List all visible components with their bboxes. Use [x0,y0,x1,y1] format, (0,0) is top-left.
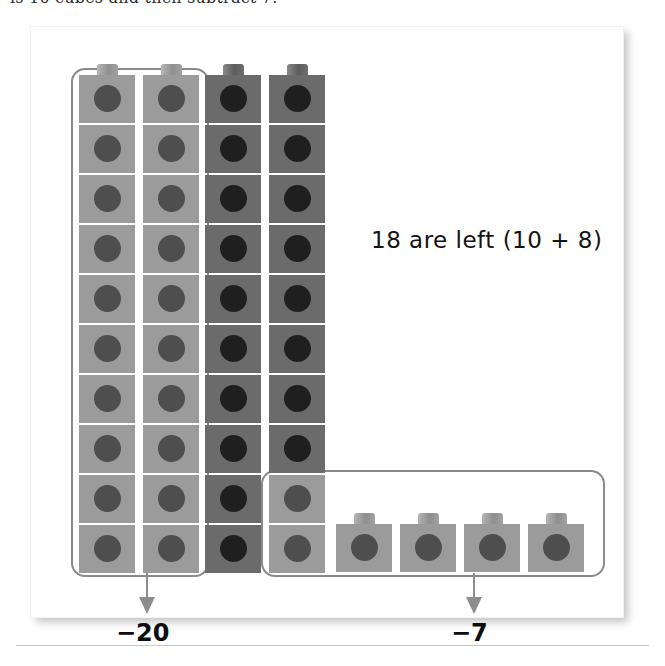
cube-dot-icon [94,435,121,462]
cube-body [143,175,199,223]
loose-cube-3[interactable] [464,524,520,574]
cube-dot-icon [94,235,121,262]
operation-label-minus-seven: −7 [451,619,488,647]
cube[interactable] [269,75,325,123]
cube-body [269,125,325,173]
cube[interactable] [143,225,199,273]
cube[interactable] [79,225,135,273]
cube[interactable] [205,275,261,323]
cube[interactable] [205,325,261,373]
cube-dot-icon [220,235,247,262]
cube[interactable] [528,524,584,572]
cube-body [143,525,199,573]
cube[interactable] [143,425,199,473]
cube-dot-icon [158,235,185,262]
cube[interactable] [79,325,135,373]
cube[interactable] [269,275,325,323]
cube[interactable] [143,325,199,373]
cube[interactable] [205,175,261,223]
cube[interactable] [143,475,199,523]
cube-dot-icon [220,285,247,312]
cube[interactable] [205,75,261,123]
cube-stack-2[interactable] [143,75,199,575]
cube[interactable] [79,175,135,223]
cube[interactable] [269,225,325,273]
cube-dot-icon [284,385,311,412]
cube-body [143,75,199,123]
cube-dot-icon [220,335,247,362]
cube-dot-icon [158,385,185,412]
cube-body [143,375,199,423]
cube-dot-icon [94,335,121,362]
cube[interactable] [205,525,261,573]
cube-dot-icon [284,185,311,212]
cube-body [79,375,135,423]
cube-dot-icon [158,485,185,512]
cube[interactable] [79,475,135,523]
cube-body [205,325,261,373]
cube-body [269,325,325,373]
cube[interactable] [143,75,199,123]
cube[interactable] [205,475,261,523]
cube-dot-icon [94,385,121,412]
cube-body [143,275,199,323]
cube-dot-icon [284,335,311,362]
cube-body [143,225,199,273]
cube[interactable] [269,125,325,173]
cube-body [79,125,135,173]
cube[interactable] [79,375,135,423]
cube-dot-icon [158,135,185,162]
cube[interactable] [464,524,520,572]
cube[interactable] [400,524,456,572]
cube[interactable] [143,525,199,573]
cube-stack-1[interactable] [79,75,135,575]
loose-cube-4[interactable] [528,524,584,574]
cube[interactable] [269,475,325,523]
arrow-head [466,597,482,614]
cube-dot-icon [158,435,185,462]
cube-body [79,525,135,573]
cube-body [400,524,456,572]
cube[interactable] [269,375,325,423]
cube[interactable] [205,125,261,173]
cube-dot-icon [284,235,311,262]
cube[interactable] [269,325,325,373]
cube[interactable] [143,275,199,323]
cube[interactable] [79,75,135,123]
loose-cube-1[interactable] [336,524,392,574]
cube-dot-icon [220,535,247,562]
cube-body [269,75,325,123]
cube-dot-icon [220,135,247,162]
cube-body [205,375,261,423]
cube[interactable] [205,425,261,473]
cube[interactable] [269,425,325,473]
cube-dot-icon [220,385,247,412]
cube-body [205,475,261,523]
cube-body [205,75,261,123]
cube[interactable] [143,375,199,423]
cube[interactable] [336,524,392,572]
cube[interactable] [79,525,135,573]
cube-dot-icon [415,534,442,561]
cube[interactable] [143,125,199,173]
cube-body [143,325,199,373]
cube[interactable] [205,375,261,423]
cube[interactable] [79,425,135,473]
cube-stack-3[interactable] [205,75,261,575]
cube[interactable] [269,175,325,223]
cube[interactable] [143,175,199,223]
cube-body [205,225,261,273]
cube-body [269,425,325,473]
cube[interactable] [269,525,325,573]
cube-dot-icon [94,285,121,312]
cube-body [79,75,135,123]
cube[interactable] [205,225,261,273]
loose-cube-2[interactable] [400,524,456,574]
cube-dot-icon [284,285,311,312]
cube[interactable] [79,125,135,173]
cube-dot-icon [94,135,121,162]
cube-stack-4[interactable] [269,75,325,575]
cube[interactable] [79,275,135,323]
cube-dot-icon [94,185,121,212]
arrow-head [139,597,155,614]
